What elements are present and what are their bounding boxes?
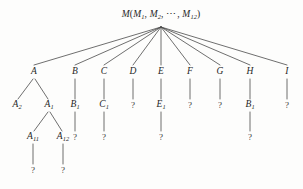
node-root-M: M(M1, M2, ⋯, M12)	[122, 10, 201, 20]
node-Gq: ?	[218, 101, 222, 110]
node-D: D	[129, 67, 136, 77]
node-A11: A11	[27, 132, 39, 142]
edge-M-to-G	[161, 27, 220, 65]
node-Iq: ?	[285, 101, 289, 110]
edge-M-to-C	[104, 27, 161, 65]
node-B1: B1	[70, 100, 79, 110]
node-G: G	[216, 67, 223, 77]
node-B1q: ?	[73, 133, 77, 142]
node-F: F	[187, 67, 193, 77]
edge-A1-to-A12	[50, 112, 62, 131]
tree-edges	[0, 0, 303, 189]
node-HB1: B1	[245, 100, 254, 110]
edge-M-to-H	[161, 27, 250, 65]
node-A1: A1	[44, 100, 53, 110]
node-Fq: ?	[188, 101, 192, 110]
node-A12: A12	[57, 132, 69, 142]
tree-diagram: M(M1, M2, ⋯, M12)ABCDEFGHIA2A1B1C1?E1??B…	[0, 0, 303, 189]
node-A11q: ?	[31, 166, 35, 175]
edge-M-to-B	[75, 27, 161, 65]
edge-A1-to-A11	[34, 112, 48, 131]
node-H: H	[246, 67, 253, 77]
edge-M-to-A	[34, 27, 161, 65]
node-E1: E1	[156, 100, 165, 110]
node-HB1q: ?	[248, 133, 252, 142]
node-I: I	[285, 67, 288, 77]
edge-M-to-D	[133, 27, 161, 65]
node-A2: A2	[12, 100, 21, 110]
node-A12q: ?	[61, 166, 65, 175]
node-C1: C1	[99, 100, 109, 110]
edge-A-to-A2	[18, 79, 33, 99]
node-A: A	[31, 67, 37, 77]
node-Dq: ?	[131, 101, 135, 110]
edge-M-to-I	[161, 27, 287, 65]
node-C: C	[101, 67, 108, 77]
node-E1q: ?	[159, 133, 163, 142]
node-B: B	[72, 67, 78, 77]
node-C1q: ?	[102, 133, 106, 142]
edge-M-to-F	[161, 27, 190, 65]
node-E: E	[158, 67, 164, 77]
edge-A-to-A1	[35, 79, 48, 99]
